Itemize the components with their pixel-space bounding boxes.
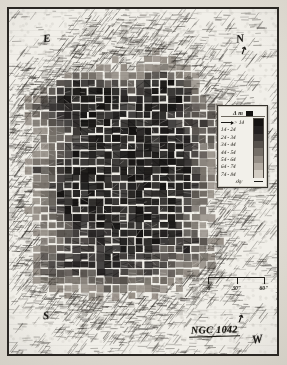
scale-bar-labels: 0 30" 60"	[208, 285, 265, 294]
legend-row: 14 - 24	[221, 126, 253, 133]
legend-row: > 14	[221, 119, 253, 126]
legend-swatch	[253, 134, 264, 141]
legend-row: 74 - 84	[221, 171, 253, 178]
legend-header-swatch	[246, 111, 253, 116]
scale-bar: 0 30" 60"	[208, 277, 265, 294]
legend-swatch	[253, 170, 264, 177]
legend-swatch-sky	[253, 178, 264, 185]
legend-swatch	[253, 156, 264, 163]
legend-box: Δ m > 14 14 - 24 24 - 34 34 - 44 44 - 54…	[217, 105, 268, 188]
legend-row-label: > 14	[234, 119, 245, 126]
legend-swatch	[253, 118, 264, 126]
legend-swatch	[253, 126, 264, 133]
legend-swatch	[253, 163, 264, 170]
compass-label-north: N	[235, 32, 245, 44]
compass-label-west: W	[252, 332, 264, 345]
legend-row-labels: > 14 14 - 24 24 - 34 34 - 44 44 - 54 54 …	[221, 118, 252, 185]
scale-tick-label: 0	[208, 285, 211, 291]
legend-row: 64 - 74	[221, 163, 253, 170]
legend-row: 54 - 64	[221, 156, 253, 163]
legend-body: > 14 14 - 24 24 - 34 34 - 44 44 - 54 54 …	[221, 118, 265, 185]
legend-gradient-swatches	[253, 118, 264, 185]
scale-tick	[264, 277, 265, 284]
legend-swatch	[253, 148, 264, 155]
object-title: NGC 1042	[189, 323, 240, 337]
scale-bar-line	[208, 277, 265, 285]
legend-swatch	[253, 141, 264, 148]
scale-tick-label: 60"	[260, 285, 269, 291]
scale-tick-label: 30"	[232, 285, 241, 291]
compass-label-south: S	[43, 310, 50, 321]
legend-row: 44 - 54	[221, 149, 253, 156]
legend-header-symbol: Δ m	[233, 110, 243, 116]
plate-frame: E N S W ↗ ↗ Δ m > 14 14 - 24 24 - 34 34 …	[7, 7, 279, 356]
legend-header: Δ m	[221, 108, 265, 117]
legend-row: 34 - 44	[221, 141, 253, 148]
figure-root: E N S W ↗ ↗ Δ m > 14 14 - 24 24 - 34 34 …	[0, 0, 287, 365]
scale-tick	[208, 277, 209, 284]
legend-row: 24 - 34	[221, 134, 253, 141]
compass-label-east: E	[42, 33, 50, 45]
scale-tick	[237, 277, 238, 284]
arrow-icon	[221, 122, 233, 123]
legend-row-sky: sky	[221, 178, 253, 185]
